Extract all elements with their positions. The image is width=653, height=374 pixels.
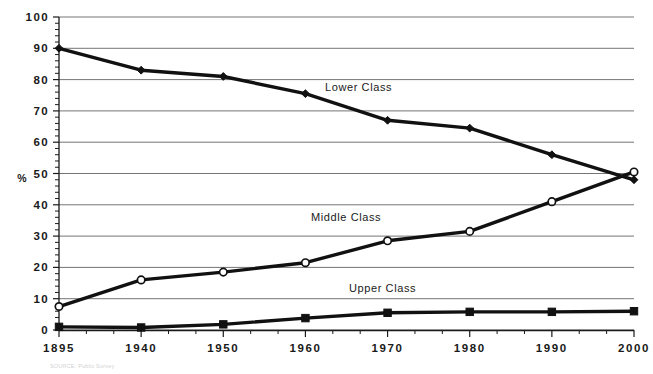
marker-middle-class-1970 [384, 237, 391, 244]
marker-upper-class-1940 [137, 324, 144, 331]
marker-middle-class-1980 [466, 228, 473, 235]
y-tick-label: 60 [33, 136, 49, 148]
series-line-lower-class [59, 48, 634, 179]
y-tick-label: 80 [33, 74, 49, 86]
marker-middle-class-1960 [302, 259, 309, 266]
x-tick-label: 1940 [125, 342, 157, 354]
marker-lower-class-1990 [548, 151, 556, 159]
y-tick-labels-group: 0102030405060708090100 [26, 11, 49, 336]
y-tick-label: 100 [26, 11, 49, 23]
y-axis-unit-label: % [17, 172, 27, 184]
chart-container: 0102030405060708090100 18951940195019601… [0, 0, 653, 374]
x-tick-label: 1950 [207, 342, 239, 354]
marker-lower-class-1980 [466, 124, 474, 132]
x-tick-labels-group: 18951940195019601970198019902000 [43, 342, 650, 354]
y-tick-label: 70 [33, 105, 49, 117]
x-tick-label: 1990 [536, 342, 568, 354]
marker-upper-class-1960 [302, 314, 309, 321]
gridlines-group [59, 17, 634, 330]
y-tick-label: 40 [33, 199, 49, 211]
marker-upper-class-2000 [630, 308, 637, 315]
line-chart-svg: 0102030405060708090100 18951940195019601… [0, 0, 653, 374]
series-annotation-upper-class: Upper Class [349, 282, 416, 294]
marker-middle-class-1940 [137, 276, 144, 283]
marker-lower-class-1960 [302, 90, 310, 98]
marker-lower-class-1895 [55, 44, 63, 52]
marker-upper-class-1990 [548, 308, 555, 315]
y-tick-label: 20 [33, 261, 49, 273]
marker-middle-class-2000 [630, 168, 637, 175]
series-annotation-lower-class: Lower Class [325, 81, 392, 93]
marker-lower-class-1970 [384, 116, 392, 124]
marker-middle-class-1990 [548, 198, 555, 205]
series-annotation-middle-class: Middle Class [311, 211, 381, 223]
marker-upper-class-1970 [384, 309, 391, 316]
marker-middle-class-1950 [220, 268, 227, 275]
y-tick-label: 90 [33, 42, 49, 54]
marker-upper-class-1980 [466, 308, 473, 315]
y-tick-label: 30 [33, 230, 49, 242]
x-tick-label: 1970 [372, 342, 404, 354]
marker-upper-class-1895 [55, 323, 62, 330]
x-tick-label: 1960 [289, 342, 321, 354]
y-tick-label: 50 [33, 168, 49, 180]
marker-middle-class-1895 [55, 303, 62, 310]
x-tick-label: 2000 [618, 342, 650, 354]
marker-lower-class-1940 [137, 66, 145, 74]
y-tick-label: 0 [41, 324, 49, 336]
x-tick-label: 1895 [43, 342, 75, 354]
marker-upper-class-1950 [220, 321, 227, 328]
marker-lower-class-1950 [219, 73, 227, 81]
marker-lower-class-2000 [630, 176, 638, 184]
y-tickmarks-group [53, 17, 59, 330]
y-tick-label: 10 [33, 293, 49, 305]
source-note: SOURCE: Public Survey [50, 363, 114, 369]
x-tick-label: 1980 [454, 342, 486, 354]
series-line-middle-class [59, 172, 634, 307]
